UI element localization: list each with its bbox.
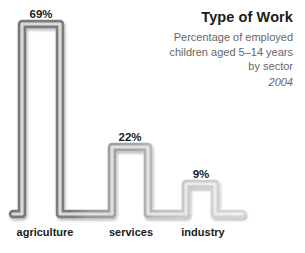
ribbon-group bbox=[13, 24, 242, 214]
category-label-agriculture: agriculture bbox=[5, 226, 85, 238]
value-label-industry: 9% bbox=[171, 168, 231, 180]
bar-ribbon-chart bbox=[0, 0, 305, 253]
bar-inner-highlight bbox=[13, 24, 242, 214]
chart-page: Type of Work Percentage of employed chil… bbox=[0, 0, 305, 253]
category-label-services: services bbox=[91, 226, 171, 238]
value-label-agriculture: 69% bbox=[11, 8, 71, 20]
category-label-industry: industry bbox=[163, 226, 243, 238]
plot-area: 69% 22% 9% agriculture services industry bbox=[0, 0, 305, 253]
value-label-services: 22% bbox=[100, 131, 160, 143]
